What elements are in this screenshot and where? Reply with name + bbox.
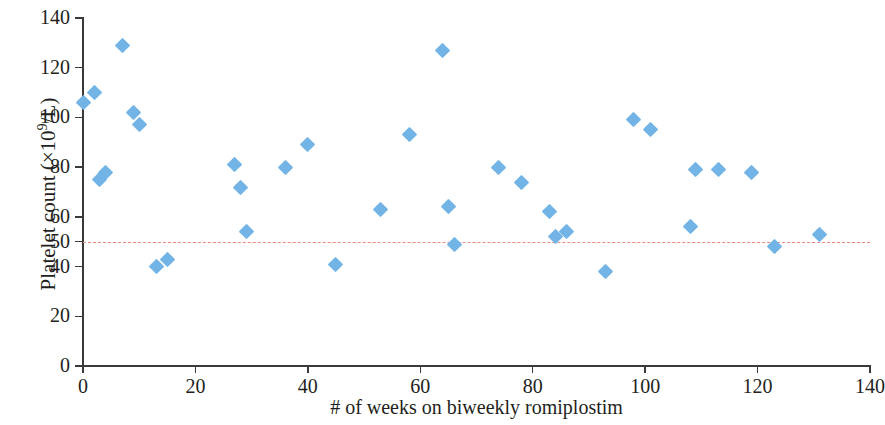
data-point xyxy=(300,137,316,153)
x-tick-mark xyxy=(420,366,421,373)
x-tick-label: 140 xyxy=(855,376,885,397)
data-point xyxy=(75,95,91,111)
data-point xyxy=(812,226,828,242)
x-tick-mark xyxy=(869,366,870,373)
x-tick-mark xyxy=(307,366,308,373)
data-point xyxy=(491,159,507,175)
y-tick-mark xyxy=(75,216,83,217)
threshold-line-50 xyxy=(83,242,870,243)
x-tick-label: 100 xyxy=(630,376,660,397)
data-point xyxy=(643,122,659,138)
y-tick-mark xyxy=(75,67,83,68)
x-axis-title: # of weeks on biweekly romiplostim xyxy=(83,396,870,418)
data-point xyxy=(767,239,783,255)
x-tick-mark xyxy=(532,366,533,373)
y-tick-label: 0 xyxy=(60,355,70,376)
y-axis-title-tail: /L) xyxy=(36,98,60,124)
y-axis-title-exponent: 9 xyxy=(34,123,50,130)
x-tick-mark xyxy=(644,366,645,373)
y-tick-mark xyxy=(75,241,83,242)
data-point xyxy=(710,162,726,178)
x-tick-mark xyxy=(195,366,196,373)
data-point xyxy=(744,164,760,180)
x-tick-mark xyxy=(82,366,83,373)
data-point xyxy=(115,38,131,54)
x-tick-mark xyxy=(757,366,758,373)
data-point xyxy=(401,127,417,143)
y-axis-title: Platelet count (×109/L) xyxy=(37,24,59,364)
data-point xyxy=(542,204,558,220)
data-point xyxy=(688,162,704,178)
y-tick-mark xyxy=(75,117,83,118)
y-tick-mark xyxy=(75,266,83,267)
data-point xyxy=(233,179,249,195)
x-tick-label: 80 xyxy=(523,376,543,397)
data-point xyxy=(446,236,462,252)
y-axis-line xyxy=(82,17,84,367)
data-point xyxy=(626,112,642,128)
data-point xyxy=(328,256,344,272)
x-tick-label: 60 xyxy=(410,376,430,397)
data-point xyxy=(278,159,294,175)
data-point xyxy=(598,264,614,280)
y-tick-mark xyxy=(75,316,83,317)
data-point xyxy=(682,219,698,235)
data-point xyxy=(441,199,457,215)
data-point xyxy=(373,202,389,218)
data-point xyxy=(86,85,102,101)
y-tick-mark xyxy=(75,17,83,18)
x-tick-label: 120 xyxy=(743,376,773,397)
data-point xyxy=(238,224,254,240)
data-point xyxy=(227,157,243,173)
data-point xyxy=(514,174,530,190)
scatter-plot-figure: 02040506080100120140 020406080100120140 … xyxy=(0,0,885,425)
x-tick-label: 40 xyxy=(298,376,318,397)
x-tick-label: 0 xyxy=(78,376,88,397)
data-point xyxy=(435,43,451,59)
x-tick-label: 20 xyxy=(185,376,205,397)
x-axis-line xyxy=(82,365,871,367)
y-axis-title-main: Platelet count (×10 xyxy=(36,130,60,290)
y-tick-mark xyxy=(75,166,83,167)
